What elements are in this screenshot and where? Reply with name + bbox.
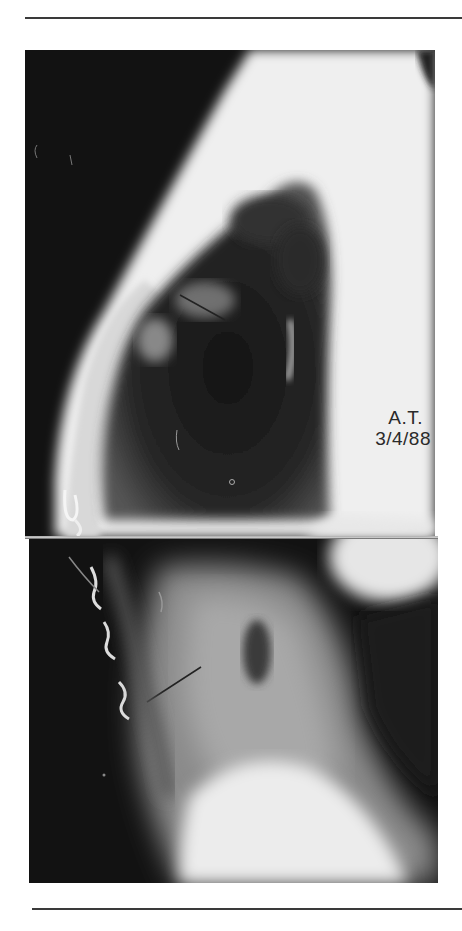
panel-split-line xyxy=(25,536,438,539)
abdomen-xray-image xyxy=(29,537,438,883)
patient-initials-label: A.T. xyxy=(388,407,423,429)
xray-figure: A.T. 3/4/88 xyxy=(25,50,438,883)
bottom-rule xyxy=(32,908,462,910)
chest-xray-image xyxy=(25,50,435,537)
exam-date-label: 3/4/88 xyxy=(375,428,431,450)
lower-radiograph-panel xyxy=(29,537,438,883)
upper-radiograph-panel: A.T. 3/4/88 xyxy=(25,50,435,537)
top-rule xyxy=(25,17,462,19)
